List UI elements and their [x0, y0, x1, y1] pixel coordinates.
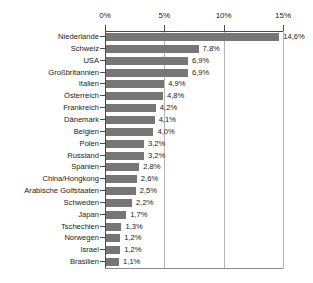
bar — [106, 140, 144, 148]
value-label: 1,2% — [124, 244, 141, 256]
value-label: 6,9% — [192, 55, 209, 67]
value-label: 1,2% — [124, 232, 141, 244]
bar — [106, 116, 155, 124]
bar — [106, 258, 119, 266]
bar-row: Schweiz7,8% — [0, 43, 313, 55]
value-label: 7,8% — [203, 43, 220, 55]
value-label: 2,2% — [136, 197, 153, 209]
category-label: Niederlande — [58, 31, 99, 43]
bar-row: Tschechien1,3% — [0, 221, 313, 233]
value-label: 4,8% — [167, 90, 184, 102]
category-tick-mark — [100, 237, 105, 238]
bar-row: Polen3,2% — [0, 138, 313, 150]
category-label: Frankreich — [63, 102, 99, 114]
bar-row: Israel1,2% — [0, 244, 313, 256]
bar-row: USA6,9% — [0, 55, 313, 67]
value-label: 1,1% — [123, 256, 140, 268]
category-tick-mark — [100, 131, 105, 132]
bar — [106, 92, 163, 100]
value-label: 2,8% — [143, 161, 160, 173]
bar-row: Brasilien1,1% — [0, 256, 313, 268]
value-label: 4,0% — [157, 126, 174, 138]
bar-row: China/Hongkong2,6% — [0, 173, 313, 185]
bar-row: Italien4,9% — [0, 78, 313, 90]
value-label: 4,2% — [160, 102, 177, 114]
bar-chart: 0%5%10%15% Niederlande14,6%Schweiz7,8%US… — [0, 0, 313, 283]
value-label: 4,1% — [159, 114, 176, 126]
x-tick-label-2: 10% — [216, 11, 232, 21]
bar — [106, 33, 279, 41]
category-tick-mark — [100, 166, 105, 167]
category-label: Brasilien — [70, 256, 99, 268]
category-tick-mark — [100, 261, 105, 262]
category-tick-mark — [100, 143, 105, 144]
category-label: Dänemark — [64, 114, 99, 126]
bar — [106, 175, 137, 183]
category-tick-mark — [100, 95, 105, 96]
category-tick-mark — [100, 249, 105, 250]
category-tick-mark — [100, 72, 105, 73]
value-label: 3,2% — [148, 138, 165, 150]
category-label: Arabische Golfstaaten — [24, 185, 99, 197]
bar — [106, 45, 199, 53]
category-label: Belgien — [74, 126, 99, 138]
bar — [106, 163, 139, 171]
bar — [106, 234, 120, 242]
value-label: 1,7% — [130, 209, 147, 221]
value-label: 2,5% — [140, 185, 157, 197]
bar-row: Großbritannien6,9% — [0, 67, 313, 79]
bar-row: Dänemark4,1% — [0, 114, 313, 126]
axis-bottom-line — [105, 268, 283, 269]
category-label: Norwegen — [64, 232, 99, 244]
category-tick-mark — [100, 36, 105, 37]
bar-row: Schweden2,2% — [0, 197, 313, 209]
bar — [106, 104, 156, 112]
bar-row: Japan1,7% — [0, 209, 313, 221]
bar — [106, 199, 132, 207]
category-label: Polen — [80, 138, 99, 150]
bar-row: Spanien2,8% — [0, 161, 313, 173]
category-label: Spanien — [71, 161, 99, 173]
category-label: Italien — [79, 78, 99, 90]
category-label: Russland — [67, 150, 99, 162]
bar-row: Frankreich4,2% — [0, 102, 313, 114]
category-tick-mark — [100, 214, 105, 215]
bar-row: Arabische Golfstaaten2,5% — [0, 185, 313, 197]
bar — [106, 57, 188, 65]
category-label: Schweden — [64, 197, 99, 209]
value-label: 6,9% — [192, 67, 209, 79]
x-tick-label-1: 5% — [159, 11, 171, 21]
category-label: USA — [83, 55, 99, 67]
bar — [106, 246, 120, 254]
value-label: 4,9% — [168, 78, 185, 90]
bar — [106, 69, 188, 77]
category-tick-mark — [100, 178, 105, 179]
category-tick-mark — [100, 226, 105, 227]
bar-row: Belgien4,0% — [0, 126, 313, 138]
bar-row: Norwegen1,2% — [0, 232, 313, 244]
category-tick-mark — [100, 190, 105, 191]
category-label: Österreich — [64, 90, 99, 102]
category-label: Israel — [80, 244, 99, 256]
category-tick-mark — [100, 119, 105, 120]
bar — [106, 128, 153, 136]
bar — [106, 211, 126, 219]
x-tick-label-0: 0% — [99, 11, 111, 21]
category-tick-mark — [100, 48, 105, 49]
category-tick-mark — [100, 107, 105, 108]
bar — [106, 80, 164, 88]
x-tick-label-3: 15% — [275, 11, 291, 21]
category-label: China/Hongkong — [42, 173, 99, 185]
value-label: 3,2% — [148, 150, 165, 162]
bar — [106, 187, 136, 195]
bar-row: Russland3,2% — [0, 150, 313, 162]
bar-row: Österreich4,8% — [0, 90, 313, 102]
value-label: 2,6% — [141, 173, 158, 185]
category-label: Großbritannien — [48, 67, 99, 79]
category-tick-mark — [100, 60, 105, 61]
category-tick-mark — [100, 83, 105, 84]
category-tick-mark — [100, 202, 105, 203]
value-label: 14,6% — [283, 31, 305, 43]
category-label: Tschechien — [61, 221, 99, 233]
category-label: Japan — [78, 209, 99, 221]
